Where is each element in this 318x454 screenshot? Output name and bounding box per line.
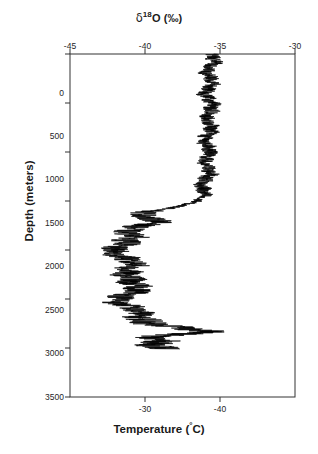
plot-frame <box>70 54 295 397</box>
d18o-depth-profile-figure: δ18O (‰) Temperature (°C) Depth (meters)… <box>0 0 318 454</box>
plot-area <box>0 0 318 454</box>
top-tick-marks <box>70 49 295 54</box>
depth-tick-marks <box>65 54 70 397</box>
bottom-tick-marks <box>145 397 220 402</box>
